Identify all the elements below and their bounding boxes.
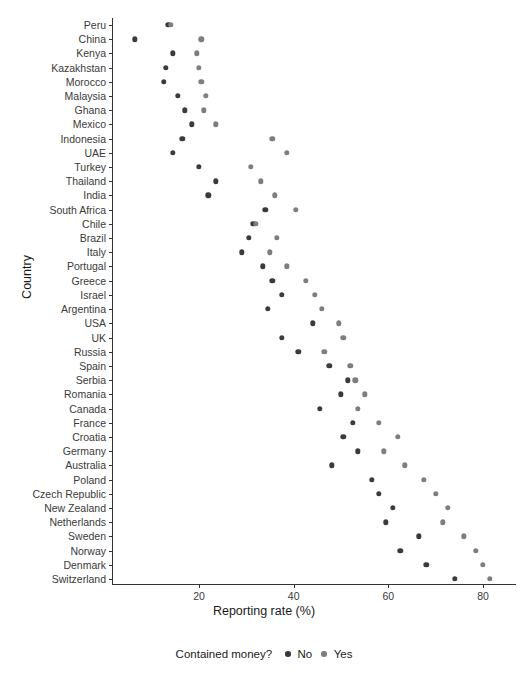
y-axis-tick <box>109 39 112 40</box>
data-point <box>480 562 485 567</box>
data-point <box>336 321 341 326</box>
data-point <box>213 122 218 127</box>
y-axis-tick <box>109 338 112 339</box>
x-axis-tick-label: 20 <box>179 590 219 602</box>
data-point <box>270 136 275 141</box>
data-point <box>199 37 204 42</box>
data-point <box>270 278 275 283</box>
data-point <box>348 363 353 368</box>
x-axis-tick-label: 80 <box>463 590 503 602</box>
data-point <box>376 420 381 425</box>
data-point <box>416 534 421 539</box>
data-point <box>279 292 284 297</box>
y-axis-tick-label: Ghana <box>0 105 106 115</box>
data-point <box>253 221 258 226</box>
data-point <box>440 519 445 524</box>
y-axis-tick <box>109 522 112 523</box>
legend-label-yes: Yes <box>334 648 353 660</box>
data-point <box>329 463 334 468</box>
y-axis-tick-label: Italy <box>0 247 106 257</box>
y-axis-tick-label: Poland <box>0 475 106 485</box>
y-axis-tick-label: Canada <box>0 404 106 414</box>
x-axis-tick <box>294 584 295 588</box>
data-point <box>355 406 360 411</box>
data-point <box>487 576 492 581</box>
y-axis-tick <box>109 224 112 225</box>
y-axis-tick-label: UAE <box>0 148 106 158</box>
y-axis-tick-label: Kazakhstan <box>0 63 106 73</box>
data-point <box>310 321 315 326</box>
data-point <box>199 79 204 84</box>
y-axis-tick <box>109 480 112 481</box>
data-point <box>161 79 166 84</box>
y-axis-tick-label: Norway <box>0 546 106 556</box>
y-axis-tick-label: UK <box>0 333 106 343</box>
y-axis-tick-label: Denmark <box>0 560 106 570</box>
data-point <box>258 179 263 184</box>
data-point <box>196 164 201 169</box>
y-axis-tick-label: Romania <box>0 389 106 399</box>
y-axis-tick <box>109 25 112 26</box>
y-axis-tick <box>109 53 112 54</box>
data-point <box>473 548 478 553</box>
y-axis-tick-label: France <box>0 418 106 428</box>
x-axis-tick-label: 40 <box>274 590 314 602</box>
data-point <box>274 235 279 240</box>
legend: Contained money? No Yes <box>0 648 528 660</box>
x-axis-tick <box>483 584 484 588</box>
y-axis-tick-label: Germany <box>0 446 106 456</box>
data-point <box>445 505 450 510</box>
x-axis-line <box>112 584 516 585</box>
y-axis-tick-label: Australia <box>0 460 106 470</box>
data-point <box>421 477 426 482</box>
data-point <box>326 363 331 368</box>
data-point <box>293 207 298 212</box>
y-axis-tick-label: Serbia <box>0 375 106 385</box>
y-axis-tick-label: Brazil <box>0 233 106 243</box>
legend-item-no[interactable]: No <box>285 648 312 660</box>
data-point <box>383 519 388 524</box>
data-point <box>433 491 438 496</box>
y-axis-tick-label: New Zealand <box>0 503 106 513</box>
x-axis-tick-label: 60 <box>368 590 408 602</box>
data-point <box>338 392 343 397</box>
y-axis-tick <box>109 139 112 140</box>
y-axis-tick <box>109 437 112 438</box>
y-axis-tick <box>109 238 112 239</box>
y-axis-tick <box>109 423 112 424</box>
data-point <box>376 491 381 496</box>
y-axis-tick-label: Greece <box>0 276 106 286</box>
y-axis-tick <box>109 465 112 466</box>
y-axis-tick <box>109 281 112 282</box>
data-point <box>248 164 253 169</box>
data-point <box>203 93 208 98</box>
y-axis-tick <box>109 565 112 566</box>
y-axis-tick <box>109 181 112 182</box>
data-point <box>182 108 187 113</box>
x-axis-tick <box>199 584 200 588</box>
data-point <box>317 406 322 411</box>
legend-item-yes[interactable]: Yes <box>321 648 352 660</box>
data-point <box>397 548 402 553</box>
y-axis-line <box>112 18 113 584</box>
data-point <box>402 463 407 468</box>
data-point <box>265 306 270 311</box>
y-axis-tick-label: Croatia <box>0 432 106 442</box>
data-point <box>303 278 308 283</box>
data-point <box>395 434 400 439</box>
data-point <box>345 377 350 382</box>
data-point <box>341 434 346 439</box>
data-point <box>355 448 360 453</box>
y-axis-tick <box>109 110 112 111</box>
x-axis-tick <box>388 584 389 588</box>
y-axis-tick <box>109 295 112 296</box>
y-axis-tick <box>109 366 112 367</box>
y-axis-tick-label: Indonesia <box>0 134 106 144</box>
x-axis-title: Reporting rate (%) <box>0 604 528 618</box>
y-axis-tick-label: Spain <box>0 361 106 371</box>
data-point <box>180 136 185 141</box>
data-point <box>246 235 251 240</box>
y-axis-tick <box>109 352 112 353</box>
legend-dot-yes-icon <box>321 651 326 656</box>
chart-root: Country PeruChinaKenyaKazakhstanMoroccoM… <box>0 0 528 678</box>
